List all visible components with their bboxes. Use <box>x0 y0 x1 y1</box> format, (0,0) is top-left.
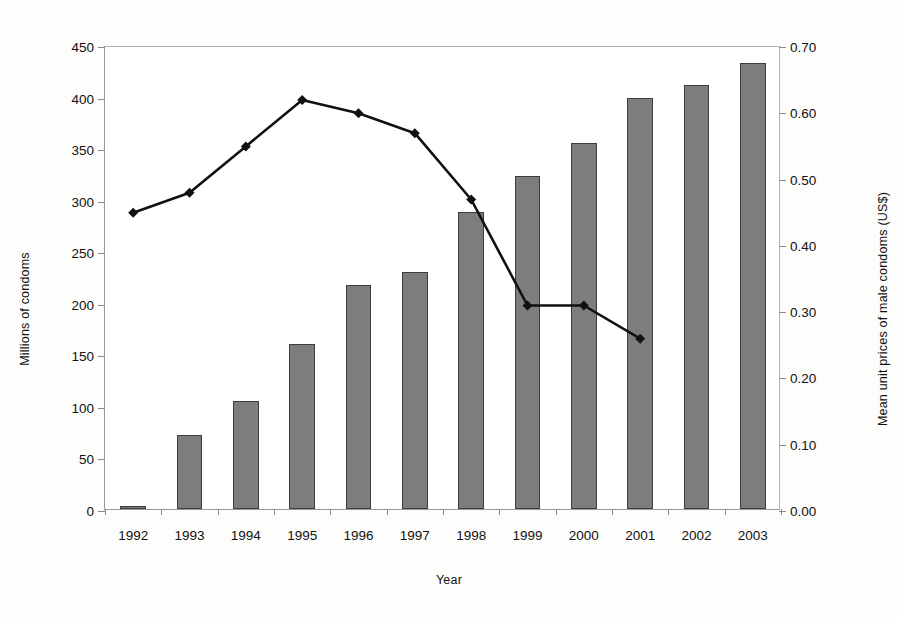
x-axis-tick <box>725 509 726 515</box>
bar <box>177 435 203 509</box>
y-axis-right-tick-label: 0.40 <box>790 238 816 253</box>
x-axis-tick-label: 1993 <box>174 528 204 543</box>
x-axis-tick-label: 1998 <box>456 528 486 543</box>
y-axis-right-title: Mean unit prices of male condoms (US$) <box>872 0 894 618</box>
y-axis-right-tick-label: 0.10 <box>790 437 816 452</box>
y-axis-right-tick <box>779 312 786 313</box>
bar <box>571 143 597 509</box>
bar <box>346 285 372 509</box>
line-marker <box>297 95 307 105</box>
y-axis-left-tick <box>98 150 105 151</box>
y-axis-left-tick <box>98 459 105 460</box>
bar <box>233 401 259 509</box>
y-axis-right-tick-label: 0.70 <box>790 40 816 55</box>
x-axis-tick <box>612 509 613 515</box>
y-axis-left-tick-label: 200 <box>71 297 94 312</box>
plot-area: 050100150200250300350400450 0.000.100.20… <box>104 46 780 510</box>
y-axis-right-tick <box>779 378 786 379</box>
bar <box>740 63 766 509</box>
y-axis-right-tick-label: 0.00 <box>790 504 816 519</box>
x-axis-tick <box>218 509 219 515</box>
y-axis-left-tick-label: 350 <box>71 143 94 158</box>
bar <box>402 272 428 509</box>
x-axis-tick <box>274 509 275 515</box>
x-axis-title: Year <box>0 570 898 588</box>
x-axis-tick-label: 1996 <box>343 528 373 543</box>
chart-figure: Millions of condoms Mean unit prices of … <box>0 0 898 618</box>
x-axis-tick-label: 1999 <box>512 528 542 543</box>
line-marker <box>128 208 138 218</box>
line-marker <box>410 128 420 138</box>
x-axis-tick <box>330 509 331 515</box>
line-marker <box>241 141 251 151</box>
y-axis-left-tick <box>98 202 105 203</box>
line-path <box>133 100 640 339</box>
x-axis-tick <box>161 509 162 515</box>
y-axis-right-tick <box>779 246 786 247</box>
line-marker <box>354 108 364 118</box>
y-axis-left-tick <box>98 511 105 512</box>
y-axis-right-title-text: Mean unit prices of male condoms (US$) <box>876 192 890 426</box>
line-series <box>105 47 781 511</box>
plot-inner: 050100150200250300350400450 0.000.100.20… <box>105 47 779 509</box>
bar <box>458 212 484 509</box>
x-axis-tick <box>781 509 782 515</box>
x-axis-tick-label: 1997 <box>400 528 430 543</box>
y-axis-right-tick <box>779 445 786 446</box>
x-axis-tick <box>499 509 500 515</box>
x-axis-tick <box>668 509 669 515</box>
x-axis-tick-label: 1992 <box>118 528 148 543</box>
y-axis-right-tick-label: 0.60 <box>790 106 816 121</box>
y-axis-left-tick-label: 400 <box>71 91 94 106</box>
y-axis-left-tick <box>98 408 105 409</box>
y-axis-left-tick <box>98 99 105 100</box>
x-axis-tick <box>387 509 388 515</box>
y-axis-right-tick-label: 0.50 <box>790 172 816 187</box>
bar <box>515 176 541 509</box>
x-axis-tick-label: 1995 <box>287 528 317 543</box>
y-axis-left-tick-label: 250 <box>71 246 94 261</box>
line-marker <box>466 194 476 204</box>
y-axis-left-tick <box>98 253 105 254</box>
y-axis-right-tick <box>779 47 786 48</box>
y-axis-left-tick-label: 0 <box>86 504 94 519</box>
bar <box>289 344 315 509</box>
x-axis-tick-label: 2001 <box>625 528 655 543</box>
y-axis-left-tick-label: 50 <box>79 452 94 467</box>
line-marker <box>185 188 195 198</box>
y-axis-left-tick <box>98 47 105 48</box>
x-axis-tick-label: 2003 <box>738 528 768 543</box>
x-axis-tick-label: 1994 <box>231 528 261 543</box>
y-axis-left-tick <box>98 305 105 306</box>
x-axis-tick <box>556 509 557 515</box>
bar <box>684 85 710 509</box>
x-axis-tick <box>105 509 106 515</box>
y-axis-left-tick-label: 150 <box>71 349 94 364</box>
y-axis-right-tick <box>779 113 786 114</box>
y-axis-left-tick-label: 450 <box>71 40 94 55</box>
x-axis-tick <box>443 509 444 515</box>
y-axis-right-tick <box>779 180 786 181</box>
x-axis-title-text: Year <box>436 573 462 587</box>
y-axis-right-tick-label: 0.20 <box>790 371 816 386</box>
y-axis-right-tick-label: 0.30 <box>790 305 816 320</box>
y-axis-left-title-text: Millions of condoms <box>18 252 32 366</box>
x-axis-tick-label: 2002 <box>681 528 711 543</box>
bar <box>120 506 146 509</box>
y-axis-left-tick <box>98 356 105 357</box>
y-axis-left-tick-label: 100 <box>71 400 94 415</box>
bar <box>627 98 653 509</box>
y-axis-left-tick-label: 300 <box>71 194 94 209</box>
y-axis-left-title: Millions of condoms <box>14 0 36 618</box>
x-axis-tick-label: 2000 <box>569 528 599 543</box>
